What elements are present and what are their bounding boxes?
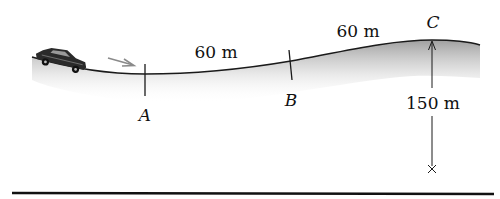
distance-ab-label: 60 m [194,42,237,62]
point-c-label: C [426,12,439,32]
point-a-label: A [137,105,151,125]
arrow-right-icon [108,58,134,66]
x-mark-icon [428,165,436,173]
height-label: 150 m [406,93,460,113]
road-profile-diagram: A B C 60 m 60 m 150 m [0,0,500,199]
ground-line [12,193,494,194]
distance-bc-label: 60 m [336,21,379,41]
point-b-label: B [284,90,298,110]
